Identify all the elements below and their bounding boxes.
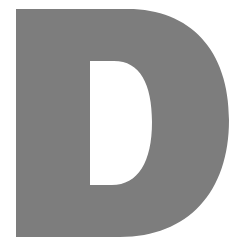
- letter-d-graphic: D: [0, 0, 239, 248]
- letter-d-path: [16, 9, 229, 237]
- letter-d-shape: [0, 0, 239, 248]
